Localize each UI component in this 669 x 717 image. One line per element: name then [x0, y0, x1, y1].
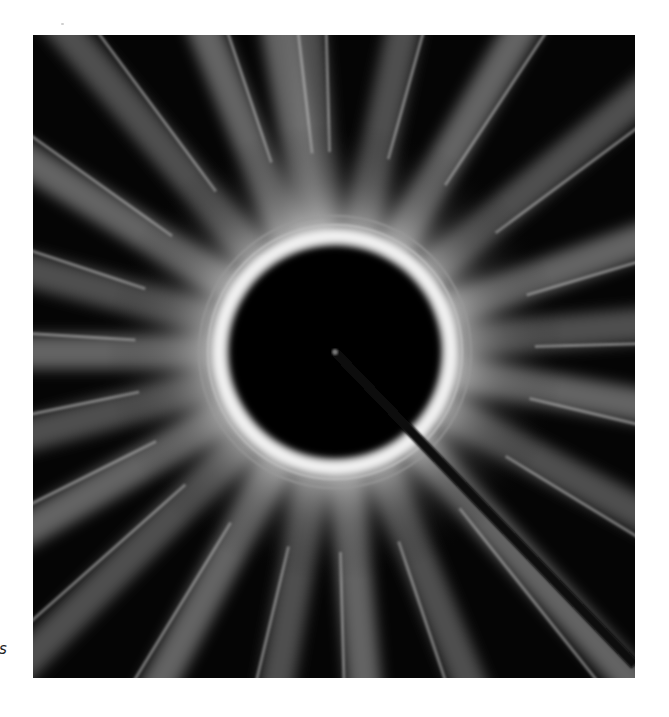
caption-fragment: s [0, 640, 7, 658]
diffraction-pattern-graphic [33, 35, 635, 678]
dust-speck [61, 23, 64, 25]
diffraction-pattern-image [33, 35, 635, 678]
